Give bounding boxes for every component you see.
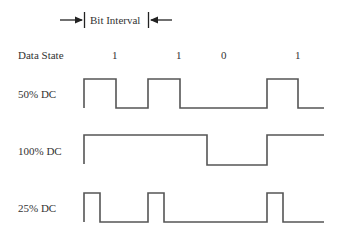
- bit-interval-indicator: Bit Interval: [60, 12, 172, 28]
- row-label-50-dc: 50% DC: [18, 88, 56, 100]
- data-state-bit-3: 0: [221, 49, 227, 61]
- data-state-bit-1: 1: [112, 49, 118, 61]
- waveform-50-dc: [84, 79, 324, 108]
- duty-cycle-diagram: Bit Interval Data State 1 1 0 1 50% DC 1…: [0, 0, 341, 238]
- data-state-bit-2: 1: [176, 49, 182, 61]
- waveform-100-dc: [84, 135, 324, 165]
- row-label-25-dc: 25% DC: [18, 202, 56, 214]
- row-label-100-dc: 100% DC: [18, 145, 62, 157]
- waveform-25-dc: [84, 193, 324, 222]
- left-arrowhead-icon: [75, 17, 83, 24]
- data-state-label: Data State: [18, 49, 64, 61]
- data-state-bit-4: 1: [295, 49, 301, 61]
- bit-interval-label: Bit Interval: [90, 14, 140, 26]
